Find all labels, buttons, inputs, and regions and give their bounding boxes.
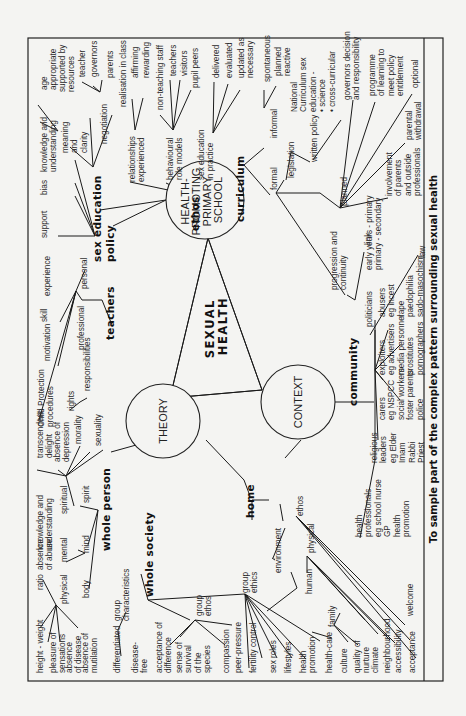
label-evaluated: evaluated: [225, 42, 234, 78]
label-planned-reactive: plannedreactive: [274, 46, 292, 76]
label-compassion: compassion: [222, 629, 231, 673]
connector-line: [180, 620, 195, 637]
label-non-teaching-staff: non-teaching staff: [156, 44, 165, 110]
label-spiritual: spiritual: [60, 486, 69, 514]
label-group-ethics: groupethics: [241, 572, 259, 593]
label-group-characteristics: groupcharacteristics: [113, 569, 131, 621]
connector-line: [267, 588, 297, 611]
label-group-ethos: groupethos: [195, 595, 213, 616]
connector-line: [291, 572, 297, 588]
label-sense-of-survival: sense ofsurvivalof thespecies: [175, 641, 212, 673]
label-environment: environment: [274, 527, 283, 573]
label-health-professionals: healthprofessionalseg school nurseGPheal…: [355, 479, 411, 537]
label-acceptance-of-difference: acceptance ofdifference: [155, 621, 173, 673]
connector-line: [170, 80, 173, 130]
label-affirming: affirming: [131, 46, 140, 78]
connector-line: [347, 295, 355, 300]
label-neighbourhood: neighbourhood: [383, 618, 392, 673]
label-politicians: politicians: [365, 291, 374, 327]
branch-curriculum: curriculum: [234, 156, 246, 222]
label-welcome: welcome: [406, 583, 415, 617]
label-mind: mind: [82, 535, 91, 553]
label-accessibility: accessibility: [394, 628, 403, 673]
branch-ethos: ethos: [189, 196, 201, 231]
label-teacher: teacher: [78, 49, 87, 77]
connector-line: [148, 600, 190, 620]
sexual-health-diagram: HEALTH- PROMOTING PRIMARY SCHOOL THEORY …: [0, 0, 466, 716]
label-supported-by-resources: supported byresources: [58, 44, 76, 92]
label-absence-of-depression: absence ofdepression: [53, 421, 71, 462]
label-disease-free: disease-free: [131, 642, 149, 673]
connector-line: [58, 291, 76, 366]
label-physical-2: physical: [307, 523, 316, 553]
label-rights: rights: [67, 391, 76, 411]
connector-line: [285, 440, 301, 458]
label-morality: morality: [74, 414, 83, 444]
label-delivered: delivered: [212, 44, 221, 78]
label-health-care: health-care: [325, 632, 334, 673]
label-climate: climate: [371, 647, 380, 673]
label-negotiation: negotiation: [100, 103, 109, 144]
label-written-policy: written policy: [310, 114, 319, 163]
connector-line: [82, 82, 100, 92]
label-rewarding: rewarding: [142, 42, 151, 78]
diagram-caption: To sample part of the complex pattern su…: [428, 175, 439, 543]
label-sex-education-in-practice: sex educationin practice: [197, 129, 215, 180]
label-physical-1: physical: [60, 574, 69, 604]
branch-community: community: [347, 338, 359, 406]
label-body: body: [82, 579, 91, 598]
branch-whole-society: whole society: [143, 512, 155, 597]
label-ethos-2: ethos: [296, 496, 305, 516]
label-differentiated: differentiated: [113, 625, 122, 673]
label-personal: personal: [80, 257, 89, 289]
label-updated-as-necessary: updated asnecessary: [237, 37, 255, 78]
label-parents: parents: [106, 51, 115, 78]
diagram-title: SEXUAL HEALTH: [203, 294, 230, 359]
label-peer-pressure: peer-pressure: [234, 622, 243, 673]
label-legislation: legislation: [287, 141, 296, 178]
label-responsibilities: responsibilities: [83, 337, 92, 391]
hub-label-context: CONTEXT: [292, 375, 304, 428]
label-health-promotion-2: healthpromotion: [299, 636, 317, 673]
label-lifestyles: lifestyles: [284, 642, 293, 673]
connector-line: [355, 252, 364, 300]
label-culture: culture: [340, 648, 349, 673]
leaf-labels: supportbiasknowledge andunderstandingage…: [36, 31, 427, 673]
label-parental-withdrawal: parentalwithdrawal: [405, 101, 423, 141]
label-visitors: visitors: [180, 51, 189, 76]
label-governors: governors: [90, 41, 99, 77]
connector-line: [307, 556, 395, 643]
label-absence-of-mutilation: absence ofmutilation: [81, 632, 99, 673]
hub-theory: THEORY: [126, 384, 200, 458]
label-religious-leaders: religiousleaderseg ElderImamRabbiPriest: [370, 432, 426, 463]
label-knowledge-understanding: knowledge andunderstanding: [40, 116, 58, 172]
branch-home: home: [244, 484, 256, 518]
connector-line: [307, 556, 378, 634]
label-abusers: abuserseg incestrapepaedophiliasado-maso…: [378, 255, 425, 317]
branch-sex-education-policy: sex education policy: [91, 172, 116, 262]
label-exploiters: exploiterseg advertisersmedia personnelp…: [378, 314, 425, 375]
hub-context: CONTEXT: [261, 365, 335, 439]
label-age-appropriate: ageappropriate: [40, 48, 58, 90]
label-sexuality: sexuality: [94, 413, 103, 446]
label-national-curriculum: NationalCurriculum sexeducation -• scien…: [290, 51, 337, 112]
label-absence-of-abuse: absenceof abuse: [36, 538, 54, 570]
label-experience: experience: [43, 255, 52, 296]
label-involvement-parents: involvementof parentsand outsideprofessi…: [385, 148, 422, 196]
label-human: human: [305, 569, 314, 594]
connector-line: [132, 99, 135, 130]
label-pupil-peers: pupil peers: [191, 48, 200, 88]
connector-line: [206, 440, 244, 480]
label-early-years: early years - primaryprimary - secondary: [365, 194, 383, 270]
label-optional: optional: [411, 59, 420, 88]
connector-line: [244, 165, 270, 195]
label-governors-decision: governors decisionand responsibility: [343, 31, 361, 100]
label-planned: planned: [340, 176, 349, 206]
label-mental: mental: [60, 537, 69, 562]
label-informal: informal: [270, 109, 279, 138]
connector-line: [80, 506, 98, 510]
connector-line: [76, 291, 82, 300]
label-height-weight: height - weight: [36, 619, 45, 673]
connector-line: [264, 86, 276, 108]
label-behavioural-role-models: behaviouralrole models: [166, 137, 184, 180]
